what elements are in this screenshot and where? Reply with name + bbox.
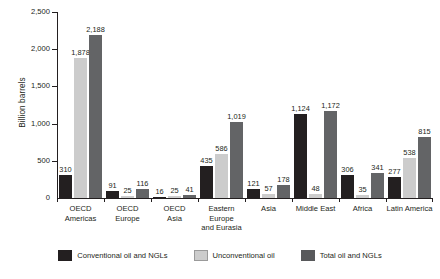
legend-swatch-icon bbox=[58, 250, 72, 261]
x-tick bbox=[151, 198, 152, 202]
bar[interactable] bbox=[59, 175, 72, 198]
bar[interactable] bbox=[371, 173, 384, 198]
bar[interactable] bbox=[309, 194, 322, 198]
bar[interactable] bbox=[183, 195, 196, 198]
bar[interactable] bbox=[388, 177, 401, 198]
bar-column: 1,124 bbox=[294, 12, 307, 198]
bar-column: 310 bbox=[59, 12, 72, 198]
bar-column: 1,878 bbox=[74, 12, 87, 198]
x-tick bbox=[292, 198, 293, 202]
bar-column: 25 bbox=[168, 12, 181, 198]
bar-value-label: 35 bbox=[358, 186, 366, 194]
x-category-label-line: and Eurasia bbox=[198, 223, 245, 233]
bar-value-label: 16 bbox=[155, 188, 163, 196]
x-axis-category-labels: OECDAmericasOECDEuropeOECDAsiaEastern Eu… bbox=[57, 204, 433, 234]
bar-column: 91 bbox=[106, 12, 119, 198]
y-tick-label: 500 bbox=[37, 157, 50, 165]
bar-value-label: 25 bbox=[123, 187, 131, 195]
y-tick-label: 0 bbox=[46, 194, 50, 202]
x-category-label-line: Asia bbox=[245, 204, 292, 214]
bar-column: 815 bbox=[418, 12, 431, 198]
bar-chart: Billion barrels 05001,0001,5002,0002,500… bbox=[0, 0, 440, 279]
bar-column: 41 bbox=[183, 12, 196, 198]
bar[interactable] bbox=[356, 195, 369, 198]
bar[interactable] bbox=[121, 196, 134, 198]
bar-value-label: 341 bbox=[371, 164, 383, 172]
bar-column: 1,019 bbox=[230, 12, 243, 198]
bar-group: 30635341 bbox=[339, 12, 386, 198]
bar-column: 35 bbox=[356, 12, 369, 198]
bar[interactable] bbox=[341, 175, 354, 198]
x-category-label: Latin America bbox=[386, 204, 433, 214]
x-category-label: Eastern Europeand Eurasia bbox=[198, 204, 245, 233]
bar[interactable] bbox=[418, 137, 431, 198]
x-category-label: OECDAsia bbox=[151, 204, 198, 223]
bar[interactable] bbox=[74, 58, 87, 198]
bar[interactable] bbox=[262, 194, 275, 198]
chart-legend: Conventional oil and NGLsUnconventional … bbox=[0, 247, 440, 263]
x-tick bbox=[432, 198, 433, 202]
legend-swatch-icon bbox=[194, 250, 208, 261]
legend-item[interactable]: Total oil and NGLs bbox=[301, 250, 382, 261]
bar-value-label: 815 bbox=[418, 128, 430, 136]
bar-value-label: 435 bbox=[200, 157, 212, 165]
x-category-label: Africa bbox=[339, 204, 386, 214]
x-category-label: Asia bbox=[245, 204, 292, 214]
x-category-label-line: Middle East bbox=[292, 204, 339, 214]
bar-value-label: 1,878 bbox=[71, 49, 90, 57]
bar-value-label: 121 bbox=[247, 180, 259, 188]
legend-swatch-icon bbox=[301, 250, 315, 261]
bar[interactable] bbox=[403, 158, 416, 198]
bar-value-label: 1,124 bbox=[291, 105, 310, 113]
bar-value-label: 538 bbox=[403, 149, 415, 157]
x-category-label-line: Americas bbox=[57, 214, 104, 224]
y-tick-label: 2,500 bbox=[31, 8, 50, 16]
x-category-label-line: Eastern Europe bbox=[198, 204, 245, 223]
bar[interactable] bbox=[215, 154, 228, 198]
bar-value-label: 91 bbox=[108, 182, 116, 190]
bar[interactable] bbox=[136, 189, 149, 198]
bar[interactable] bbox=[168, 196, 181, 198]
bar-column: 178 bbox=[277, 12, 290, 198]
bar-value-label: 25 bbox=[170, 187, 178, 195]
bar-value-label: 586 bbox=[215, 145, 227, 153]
y-axis-tick-labels: 05001,0001,5002,0002,500 bbox=[0, 12, 50, 198]
bar-column: 48 bbox=[309, 12, 322, 198]
bar-group: 1,124481,172 bbox=[292, 12, 339, 198]
bar[interactable] bbox=[324, 111, 337, 198]
plot-area: 3101,8782,18891251161625414355861,019121… bbox=[57, 12, 433, 198]
bar-value-label: 277 bbox=[388, 168, 400, 176]
x-category-label-line: Latin America bbox=[386, 204, 433, 214]
bar-group: 4355861,019 bbox=[198, 12, 245, 198]
x-tick bbox=[198, 198, 199, 202]
x-category-label: OECDAmericas bbox=[57, 204, 104, 223]
y-tick-label: 1,500 bbox=[31, 82, 50, 90]
legend-item[interactable]: Conventional oil and NGLs bbox=[58, 250, 167, 261]
bar[interactable] bbox=[106, 191, 119, 198]
bar-value-label: 310 bbox=[59, 166, 71, 174]
bar[interactable] bbox=[153, 197, 166, 198]
bar-column: 538 bbox=[403, 12, 416, 198]
legend-item[interactable]: Unconventional oil bbox=[194, 250, 275, 261]
bar-value-label: 57 bbox=[264, 185, 272, 193]
x-category-label-line: OECD bbox=[57, 204, 104, 214]
bar[interactable] bbox=[294, 114, 307, 198]
bar[interactable] bbox=[89, 35, 102, 198]
bar-column: 341 bbox=[371, 12, 384, 198]
bar[interactable] bbox=[230, 122, 243, 198]
bar[interactable] bbox=[247, 189, 260, 198]
bar-column: 25 bbox=[121, 12, 134, 198]
bar-column: 306 bbox=[341, 12, 354, 198]
bar[interactable] bbox=[200, 166, 213, 198]
bar-value-label: 2,188 bbox=[86, 26, 105, 34]
y-tick-label: 2,000 bbox=[31, 45, 50, 53]
bar-column: 435 bbox=[200, 12, 213, 198]
bar-value-label: 116 bbox=[137, 180, 149, 188]
bar[interactable] bbox=[277, 185, 290, 198]
bar-column: 121 bbox=[247, 12, 260, 198]
x-category-label: OECDEurope bbox=[104, 204, 151, 223]
bar-group: 3101,8782,188 bbox=[57, 12, 104, 198]
x-category-label-line: Africa bbox=[339, 204, 386, 214]
bar-group: 12157178 bbox=[245, 12, 292, 198]
x-category-label-line: Europe bbox=[104, 214, 151, 224]
